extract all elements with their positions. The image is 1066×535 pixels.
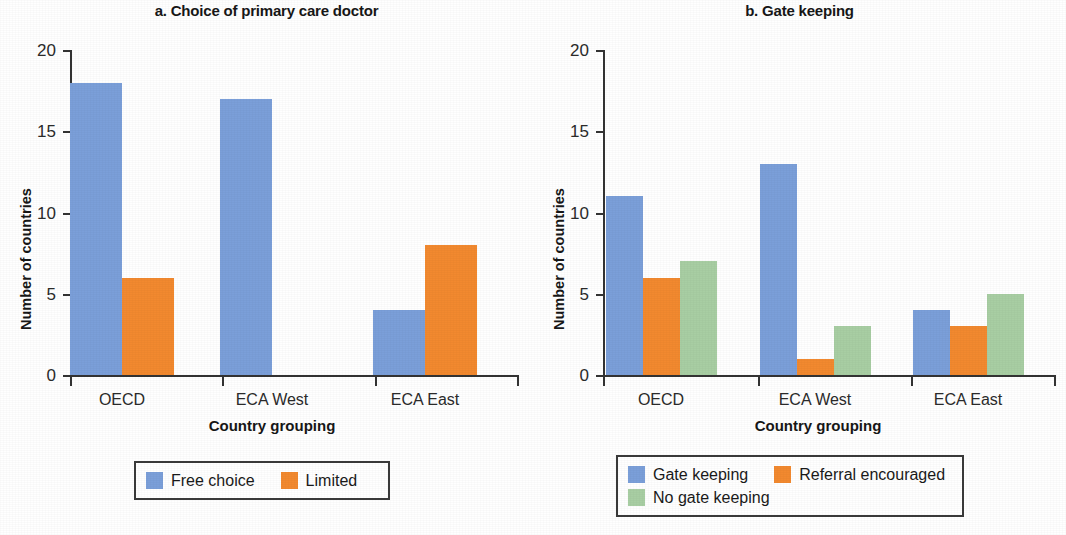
legend-label: Gate keeping xyxy=(653,463,748,486)
bar xyxy=(913,310,950,375)
x-axis-line xyxy=(70,375,519,377)
legend-row: Gate keepingReferral encouraged xyxy=(628,463,950,486)
x-axis-tick xyxy=(758,377,760,386)
x-axis-category-label: ECA West xyxy=(212,391,332,409)
panel-a-legend: Free choiceLimited xyxy=(134,461,390,500)
y-axis-tick-label: 20 xyxy=(555,41,589,61)
bar xyxy=(987,294,1024,375)
y-axis-tick-label: 15 xyxy=(22,122,56,142)
bar xyxy=(680,261,717,375)
y-axis-tick xyxy=(596,131,603,133)
legend-row: No gate keeping xyxy=(628,486,950,509)
y-axis-tick xyxy=(63,131,70,133)
legend-item[interactable]: Gate keeping xyxy=(628,463,748,486)
legend-item[interactable]: Limited xyxy=(281,469,358,492)
figure-panels: a. Choice of primary care doctor 0510152… xyxy=(0,0,1066,535)
legend-item[interactable]: Free choice xyxy=(146,469,255,492)
legend-swatch-icon xyxy=(146,472,163,489)
bar xyxy=(643,278,680,376)
x-axis-tick xyxy=(1054,377,1056,386)
legend-row: Free choiceLimited xyxy=(146,469,376,492)
bar xyxy=(425,245,477,375)
x-axis-line xyxy=(603,375,1056,377)
panel-a-choice-of-primary-care-doctor: a. Choice of primary care doctor 0510152… xyxy=(0,0,533,535)
bar xyxy=(122,278,174,376)
panel-b-legend: Gate keepingReferral encouragedNo gate k… xyxy=(616,455,964,517)
y-axis-tick xyxy=(63,294,70,296)
bar xyxy=(70,83,122,376)
bar xyxy=(834,326,871,375)
y-axis-tick xyxy=(596,213,603,215)
y-axis-tick-label: 20 xyxy=(22,41,56,61)
y-axis-tick-label: 0 xyxy=(555,366,589,386)
y-axis-tick xyxy=(63,213,70,215)
y-axis-tick xyxy=(63,50,70,52)
x-axis-tick xyxy=(603,377,605,386)
x-axis-tick xyxy=(222,377,224,386)
panel-b-x-axis-label: Country grouping xyxy=(668,417,968,434)
bar xyxy=(950,326,987,375)
y-axis-tick xyxy=(596,50,603,52)
x-axis-category-label: OECD xyxy=(601,391,721,409)
y-axis-tick-label: 0 xyxy=(22,366,56,386)
bar xyxy=(220,99,272,375)
x-axis-tick xyxy=(70,377,72,386)
bar xyxy=(760,164,797,375)
legend-swatch-icon xyxy=(628,466,645,483)
bar xyxy=(797,359,834,375)
legend-swatch-icon xyxy=(628,489,645,506)
x-axis-category-label: ECA West xyxy=(755,391,875,409)
panel-b-y-axis-label: Number of countries xyxy=(551,188,567,330)
bar xyxy=(606,196,643,375)
legend-item[interactable]: Referral encouraged xyxy=(774,463,945,486)
y-axis-tick xyxy=(596,375,603,377)
y-axis-tick xyxy=(596,294,603,296)
x-axis-tick xyxy=(517,377,519,386)
legend-swatch-icon xyxy=(281,472,298,489)
legend-swatch-icon xyxy=(774,466,791,483)
legend-label: No gate keeping xyxy=(653,486,770,509)
x-axis-category-label: ECA East xyxy=(908,391,1028,409)
y-axis-tick-label: 15 xyxy=(555,122,589,142)
legend-label: Limited xyxy=(306,469,358,492)
x-axis-tick xyxy=(375,377,377,386)
x-axis-tick xyxy=(911,377,913,386)
x-axis-category-label: OECD xyxy=(62,391,182,409)
bar xyxy=(373,310,425,375)
panel-a-y-axis-label: Number of countries xyxy=(18,188,34,330)
y-axis-tick xyxy=(63,375,70,377)
legend-label: Referral encouraged xyxy=(799,463,945,486)
panel-a-x-axis-label: Country grouping xyxy=(122,417,422,434)
panel-b-gate-keeping: b. Gate keeping 05101520OECDECA WestECA … xyxy=(533,0,1066,535)
legend-label: Free choice xyxy=(171,469,255,492)
legend-item[interactable]: No gate keeping xyxy=(628,486,770,509)
panel-a-plot-area: 05101520OECDECA WestECA East xyxy=(0,0,533,535)
x-axis-category-label: ECA East xyxy=(365,391,485,409)
